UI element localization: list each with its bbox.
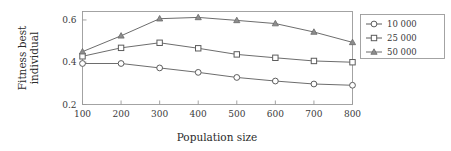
data-point-marker: [196, 46, 201, 51]
y-axis-title-line1: Fitness best: [16, 25, 28, 90]
data-point-marker: [273, 55, 278, 60]
data-point-marker: [118, 45, 123, 50]
data-point-marker: [80, 61, 86, 67]
data-point-marker: [311, 81, 317, 87]
legend-items: 10 00025 00050 000: [366, 19, 417, 57]
x-tick-label: 600: [267, 109, 284, 119]
chart-legend: 10 00025 00050 000: [361, 15, 445, 59]
y-axis-title-line2: individual: [28, 31, 40, 84]
data-point-marker: [195, 14, 201, 20]
legend-label: 25 000: [387, 33, 417, 43]
data-point-marker: [234, 75, 240, 81]
data-point-marker: [350, 60, 355, 65]
data-point-marker: [234, 52, 239, 57]
data-point-marker: [118, 61, 124, 67]
x-tick-label: 100: [74, 109, 91, 119]
x-tick-label: 500: [228, 109, 245, 119]
data-point-marker: [311, 58, 316, 63]
y-tick-label: 0.4: [62, 57, 77, 67]
x-tick-label: 400: [190, 109, 207, 119]
y-axis-title: Fitness best individual: [16, 25, 40, 90]
data-point-marker: [350, 82, 356, 88]
fitness-vs-population-line-chart: 0.20.40.6 100200300400500600700800 Fitne…: [0, 0, 451, 151]
x-axis-title: Population size: [177, 131, 258, 143]
series-circle: [80, 61, 356, 89]
chart-figure: 0.20.40.6 100200300400500600700800 Fitne…: [0, 0, 451, 151]
data-series-group: [79, 14, 355, 88]
data-point-marker: [157, 65, 163, 71]
legend-sample-marker: [371, 35, 376, 40]
x-tick-label: 700: [305, 109, 322, 119]
legend-sample-marker: [371, 21, 377, 27]
x-tick-label: 300: [151, 109, 168, 119]
y-axis-tick-labels: 0.20.40.6: [62, 15, 77, 110]
x-tick-label: 800: [344, 109, 361, 119]
y-tick-label: 0.6: [62, 15, 77, 25]
x-axis-tick-labels: 100200300400500600700800: [74, 109, 361, 119]
data-point-marker: [80, 54, 85, 59]
data-point-marker: [272, 78, 278, 84]
data-point-marker: [195, 69, 201, 75]
x-tick-label: 200: [112, 109, 129, 119]
legend-label: 10 000: [387, 19, 417, 29]
legend-label: 50 000: [387, 47, 417, 57]
data-point-marker: [157, 40, 162, 45]
x-axis-tick-marks: [83, 101, 353, 105]
